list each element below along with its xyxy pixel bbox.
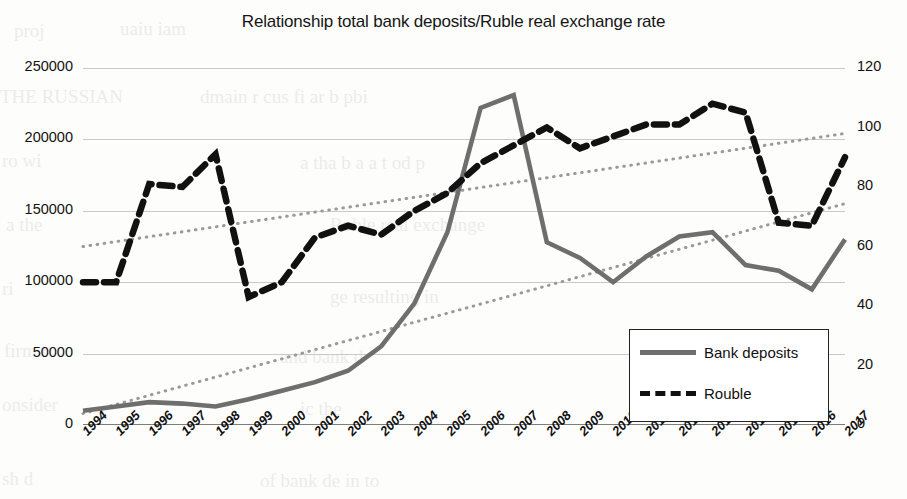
- y-axis-right-tick-label: 120: [857, 58, 881, 74]
- y-axis-left-tick-label: 250000: [25, 58, 73, 74]
- rouble-trendline: [83, 133, 845, 246]
- y-axis-left-tick-label: 100000: [25, 272, 73, 288]
- chart-title: Relationship total bank deposits/Ruble r…: [0, 12, 907, 32]
- chart-legend: Bank deposits Rouble: [629, 329, 829, 422]
- legend-label-rouble: Rouble: [704, 385, 752, 402]
- legend-item-bank-deposits: Bank deposits: [640, 344, 798, 361]
- y-axis-right-tick-label: 60: [857, 237, 873, 253]
- y-axis-left-tick-label: 200000: [25, 129, 73, 145]
- y-axis-left-tick-label: 50000: [33, 344, 73, 360]
- y-axis-right-tick-label: 20: [857, 356, 873, 372]
- legend-swatch-dashed-icon: [640, 391, 696, 396]
- legend-swatch-solid-icon: [640, 350, 696, 355]
- y-axis-right-tick-label: 100: [857, 118, 881, 134]
- x-axis-tick-label: 2017: [841, 408, 872, 439]
- legend-item-rouble: Rouble: [640, 385, 752, 402]
- series-rouble: [83, 104, 845, 297]
- y-axis-left-tick-label: 0: [65, 415, 73, 431]
- y-axis-left-tick-label: 150000: [25, 201, 73, 217]
- y-axis-right-tick-label: 40: [857, 296, 873, 312]
- y-axis-right-tick-label: 80: [857, 177, 873, 193]
- legend-label-bank-deposits: Bank deposits: [704, 344, 798, 361]
- chart-container: Relationship total bank deposits/Ruble r…: [0, 0, 907, 499]
- x-axis-ticks: 1994199519961997199819992000200120022003…: [83, 428, 845, 498]
